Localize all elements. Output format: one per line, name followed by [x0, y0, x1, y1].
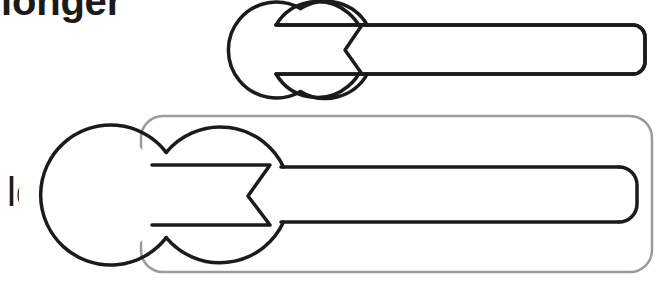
wrench-illustration	[0, 0, 661, 284]
large-wrench-head-arc-upper-right	[166, 127, 283, 167]
large-wrench-head-arc-lower-right	[166, 222, 283, 263]
small-wrench-top-clip-mask	[278, 27, 638, 72]
small-wrench-group	[228, 1, 645, 98]
figure-canvas: longer longer	[0, 0, 661, 284]
large-wrench-group	[19, 125, 637, 265]
large-wrench-interior-clear	[170, 169, 630, 220]
